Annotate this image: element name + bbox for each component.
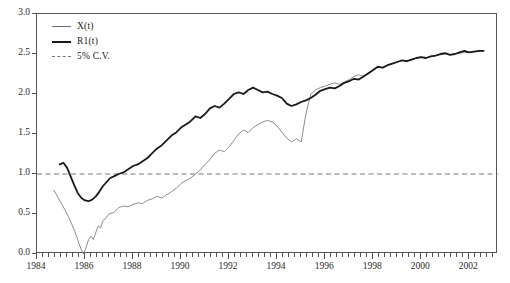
x-tick-label: 1994 (254, 261, 298, 271)
x-tick-minor (72, 253, 73, 257)
x-tick-major (36, 253, 37, 259)
x-tick-minor (456, 253, 457, 257)
y-tick-label: 0.5 (0, 207, 30, 217)
x-tick-minor (270, 253, 271, 257)
x-tick-minor (318, 253, 319, 257)
x-tick-minor (294, 253, 295, 257)
x-tick-minor (474, 253, 475, 257)
x-tick-major (468, 253, 469, 259)
x-tick-major (228, 253, 229, 259)
x-tick-major (180, 253, 181, 259)
x-tick-minor (222, 253, 223, 257)
x-tick-minor (246, 253, 247, 257)
x-tick-minor (450, 253, 451, 257)
x-tick-minor (414, 253, 415, 257)
legend-swatch-dash-icon (52, 51, 71, 61)
x-tick-minor (252, 253, 253, 257)
x-tick-minor (162, 253, 163, 257)
legend-swatch-bold-icon (52, 36, 71, 46)
x-tick-label: 1992 (206, 261, 250, 271)
x-tick-minor (216, 253, 217, 257)
x-tick-minor (144, 253, 145, 257)
x-tick-minor (264, 253, 265, 257)
x-tick-minor (402, 253, 403, 257)
x-tick-minor (138, 253, 139, 257)
x-tick-minor (258, 253, 259, 257)
x-tick-major (132, 253, 133, 259)
x-tick-minor (210, 253, 211, 257)
x-tick-minor (42, 253, 43, 257)
x-tick-minor (360, 253, 361, 257)
x-tick-label: 1988 (110, 261, 154, 271)
x-tick-minor (282, 253, 283, 257)
x-tick-minor (348, 253, 349, 257)
x-tick-minor (492, 253, 493, 257)
y-tick-label: 1.0 (0, 167, 30, 177)
legend-label: 5% C.V. (77, 51, 110, 61)
x-tick-minor (306, 253, 307, 257)
x-tick-minor (168, 253, 169, 257)
x-tick-minor (354, 253, 355, 257)
x-tick-minor (186, 253, 187, 257)
chart-figure: 0.00.51.01.52.02.53.0 198419861988199019… (0, 0, 510, 283)
x-tick-minor (96, 253, 97, 257)
x-tick-minor (432, 253, 433, 257)
x-tick-minor (198, 253, 199, 257)
x-tick-minor (174, 253, 175, 257)
y-tick-label: 2.5 (0, 47, 30, 57)
x-tick-minor (408, 253, 409, 257)
x-tick-minor (342, 253, 343, 257)
x-tick-minor (384, 253, 385, 257)
x-tick-minor (480, 253, 481, 257)
x-tick-minor (234, 253, 235, 257)
series-line-x (54, 51, 484, 254)
x-tick-minor (60, 253, 61, 257)
x-tick-minor (396, 253, 397, 257)
x-tick-minor (78, 253, 79, 257)
x-tick-label: 1996 (302, 261, 346, 271)
x-tick-label: 2000 (398, 261, 442, 271)
x-tick-minor (114, 253, 115, 257)
x-tick-minor (204, 253, 205, 257)
x-tick-major (276, 253, 277, 259)
legend-item: R1(t) (52, 34, 110, 47)
x-tick-label: 1990 (158, 261, 202, 271)
x-tick-minor (102, 253, 103, 257)
x-tick-label: 1998 (350, 261, 394, 271)
x-tick-minor (426, 253, 427, 257)
x-tick-minor (54, 253, 55, 257)
legend-label: X(t) (77, 21, 94, 31)
y-tick-label: 1.5 (0, 127, 30, 137)
legend-item: X(t) (52, 19, 110, 32)
x-tick-minor (312, 253, 313, 257)
y-tick-label: 2.0 (0, 87, 30, 97)
x-tick-minor (336, 253, 337, 257)
y-tick-label: 3.0 (0, 7, 30, 17)
x-tick-minor (126, 253, 127, 257)
series-line-r1 (60, 51, 484, 201)
legend-swatch-thin-icon (52, 21, 71, 31)
x-tick-minor (444, 253, 445, 257)
y-tick-label: 0.0 (0, 247, 30, 257)
x-tick-minor (66, 253, 67, 257)
x-tick-label: 1984 (14, 261, 58, 271)
x-tick-minor (300, 253, 301, 257)
x-tick-major (84, 253, 85, 259)
x-tick-minor (486, 253, 487, 257)
legend-label: R1(t) (77, 36, 98, 46)
x-tick-minor (48, 253, 49, 257)
x-tick-minor (390, 253, 391, 257)
x-tick-minor (438, 253, 439, 257)
x-tick-minor (120, 253, 121, 257)
x-tick-minor (330, 253, 331, 257)
x-tick-minor (108, 253, 109, 257)
chart-legend: X(t)R1(t)5% C.V. (52, 19, 110, 64)
x-tick-minor (378, 253, 379, 257)
x-tick-major (324, 253, 325, 259)
x-tick-minor (462, 253, 463, 257)
x-tick-major (420, 253, 421, 259)
x-tick-label: 1986 (62, 261, 106, 271)
x-tick-minor (366, 253, 367, 257)
legend-item: 5% C.V. (52, 49, 110, 62)
x-tick-minor (192, 253, 193, 257)
